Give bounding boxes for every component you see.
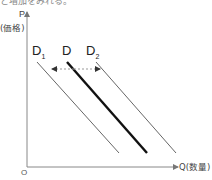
x-axis-label: Q(数量) <box>179 160 210 172</box>
label-d1-main: D <box>32 43 41 58</box>
demand-shift-diagram <box>0 0 212 180</box>
label-d2-sub: 2 <box>95 53 99 60</box>
label-d-main: D <box>62 43 71 58</box>
label-d: D <box>62 43 71 58</box>
y-axis-text: (価格) <box>0 21 25 33</box>
origin-label: O <box>21 168 27 177</box>
label-d2: D2 <box>86 43 99 60</box>
label-d2-main: D <box>86 43 95 58</box>
y-axis-symbol: P <box>19 9 25 19</box>
label-d1-sub: 1 <box>41 53 45 60</box>
label-d1: D1 <box>32 43 45 60</box>
